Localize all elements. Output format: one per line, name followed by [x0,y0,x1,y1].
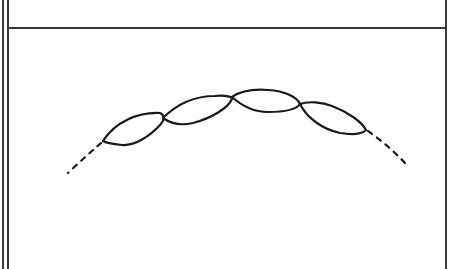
dashed-extension-right [368,131,405,163]
loop-4 [300,102,366,134]
loop-3 [232,90,300,112]
loop-2 [163,96,232,124]
loop-chain-drawing [0,0,457,269]
dashed-extension-left [68,143,101,173]
loop-1 [103,113,164,145]
diagram-figure [0,0,457,269]
